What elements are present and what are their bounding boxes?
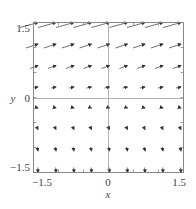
vector-arrow	[44, 44, 56, 48]
vector-arrows	[20, 23, 181, 173]
vector-arrow	[87, 87, 92, 88]
vector-arrow	[38, 23, 56, 28]
vector-arrow	[120, 66, 128, 69]
vector-arrow	[127, 147, 128, 151]
vector-arrow	[162, 127, 164, 130]
vector-arrow	[151, 44, 163, 48]
vector-arrow	[125, 107, 128, 108]
vector-arrow	[110, 23, 128, 28]
vector-arrow	[127, 23, 145, 28]
vector-arrow	[89, 107, 92, 108]
vector-arrow	[123, 87, 128, 88]
y-tick-label-max: 1.5	[16, 22, 30, 34]
vector-arrow	[142, 107, 145, 108]
y-tick-label-min: −1.5	[10, 161, 30, 173]
vector-arrow	[73, 147, 74, 151]
y-tick-label-zero: 0	[25, 92, 31, 104]
vector-arrow	[155, 66, 163, 69]
x-tick-label-zero: 0	[105, 176, 111, 188]
vector-field-chart: 1.5 0 −1.5 y −1.5 0 1.5 x	[0, 0, 196, 209]
vector-arrow	[48, 66, 56, 69]
vector-arrow	[144, 147, 145, 151]
vector-arrow	[144, 127, 146, 130]
vector-arrow	[116, 44, 128, 48]
vector-arrow	[133, 44, 145, 48]
vector-arrow	[176, 87, 181, 88]
vector-arrow	[37, 147, 38, 151]
vector-arrow	[90, 127, 92, 130]
vector-arrow	[180, 127, 182, 130]
vector-arrow	[84, 66, 92, 69]
vector-arrow	[92, 23, 110, 28]
vector-arrow	[162, 147, 163, 151]
vector-arrow	[71, 107, 74, 108]
vector-arrow	[137, 66, 145, 69]
x-tick-label-min: −1.5	[32, 176, 52, 188]
vector-arrow	[73, 127, 75, 130]
vector-arrow	[51, 87, 56, 88]
vector-arrow	[158, 87, 163, 88]
vector-arrow	[98, 44, 110, 48]
vector-arrow	[37, 127, 39, 130]
vector-arrow	[178, 107, 181, 108]
x-axis-label: x	[105, 188, 111, 200]
vector-arrow	[55, 127, 57, 130]
vector-arrow	[66, 66, 74, 69]
vector-arrow	[126, 127, 128, 130]
vector-arrow	[74, 23, 92, 28]
vector-arrow	[80, 44, 92, 48]
vector-arrow	[55, 147, 56, 151]
vector-arrow	[163, 23, 181, 28]
vector-arrow	[91, 147, 92, 151]
vector-arrow	[160, 107, 163, 108]
vector-arrow	[35, 107, 38, 108]
vector-arrow	[69, 87, 74, 88]
vector-arrow	[62, 44, 74, 48]
vector-arrow	[107, 107, 110, 108]
vector-arrow	[140, 87, 145, 88]
vector-arrow	[53, 107, 56, 108]
x-tick-label-max: 1.5	[172, 176, 186, 188]
y-axis-label: y	[10, 92, 16, 104]
vector-arrow	[169, 44, 181, 48]
vector-arrow	[145, 23, 163, 28]
vector-arrow	[173, 66, 181, 69]
